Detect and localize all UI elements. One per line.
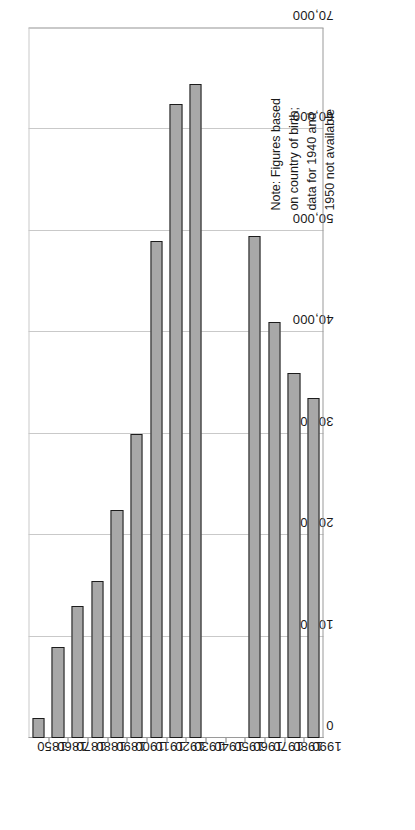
bar-1980 — [287, 373, 299, 738]
chart-note: Note: Figures based on country of birth;… — [266, 61, 339, 211]
bar-1880 — [91, 581, 103, 738]
category-tick — [244, 738, 245, 743]
bar-1920 — [169, 104, 181, 738]
bar-slot — [87, 28, 107, 738]
category-tick — [48, 738, 49, 743]
category-tick — [225, 738, 226, 743]
bar-slot — [225, 28, 245, 738]
category-tick — [185, 738, 186, 743]
bar-slot — [67, 28, 87, 738]
category-tick — [107, 738, 108, 743]
category-tick — [264, 738, 265, 743]
category-label-1990: 1990 — [312, 739, 342, 754]
bar-1900 — [130, 434, 142, 738]
category-tick — [303, 738, 304, 743]
category-tick — [146, 738, 147, 743]
plot-area: Note: Figures based on country of birth;… — [28, 28, 323, 738]
bar-1850 — [32, 718, 44, 738]
category-tick — [87, 738, 88, 743]
bar-1930 — [189, 84, 201, 738]
bar-1870 — [71, 606, 83, 738]
bar-1960 — [248, 236, 260, 738]
bar-slot — [28, 28, 48, 738]
bar-1860 — [51, 647, 63, 738]
bar-slot — [126, 28, 146, 738]
bar-slot — [166, 28, 186, 738]
bar-slot — [205, 28, 225, 738]
bar-1890 — [110, 510, 122, 738]
bar-slot — [48, 28, 68, 738]
category-tick — [284, 738, 285, 743]
chart-figure: 010,00020,00030,00040,00050,00060,00070,… — [0, 0, 415, 830]
value-tick-label: 0 — [326, 718, 333, 733]
bar-slot — [146, 28, 166, 738]
bar-1970 — [268, 322, 280, 738]
bar-slot — [244, 28, 264, 738]
category-tick — [67, 738, 68, 743]
bar-1990 — [307, 398, 319, 738]
category-axis-labels: 1850186018701880189019001910192019301940… — [28, 738, 323, 830]
bar-1910 — [150, 241, 162, 738]
category-tick — [205, 738, 206, 743]
category-tick — [126, 738, 127, 743]
value-tick-label: 70,000 — [292, 8, 333, 23]
bar-slot — [107, 28, 127, 738]
category-tick — [166, 738, 167, 743]
bar-slot — [185, 28, 205, 738]
